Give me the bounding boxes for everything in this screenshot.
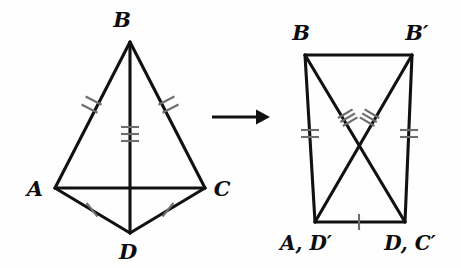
tick-mark bbox=[163, 203, 174, 217]
segment-BA bbox=[55, 42, 130, 188]
label-vertex-D: D bbox=[118, 239, 138, 264]
label-vertex-D-Cprime: D, C′ bbox=[383, 231, 436, 255]
label-vertex-C: C bbox=[214, 176, 231, 201]
tick-group-AD-single bbox=[87, 203, 98, 217]
left-figure-kite-abcd: B A C D bbox=[25, 7, 231, 264]
tick-group-DC-single bbox=[163, 203, 174, 217]
diagonal-Bprime-ADprime bbox=[315, 55, 412, 222]
label-vertex-B-prime: B′ bbox=[404, 20, 429, 45]
tick-mark bbox=[87, 203, 98, 217]
label-vertex-B: B bbox=[112, 7, 131, 32]
label-vertex-A-Dprime: A, D′ bbox=[278, 231, 333, 255]
label-vertex-A: A bbox=[25, 176, 43, 201]
arrow-head-icon bbox=[256, 110, 270, 125]
right-figure-trapezoid: B B′ A, D′ D, C′ bbox=[278, 20, 437, 255]
geometry-diagram: B A C D bbox=[0, 0, 461, 268]
segment-BC bbox=[130, 42, 205, 188]
segment-left-B-ADprime bbox=[305, 55, 315, 222]
transformation-arrow bbox=[212, 110, 270, 125]
diagram-canvas: B A C D bbox=[0, 0, 461, 268]
diagonal-B-DCprime bbox=[305, 55, 405, 222]
label-vertex-B-right: B bbox=[291, 20, 310, 45]
segment-right-Bprime-DCprime bbox=[405, 55, 412, 222]
